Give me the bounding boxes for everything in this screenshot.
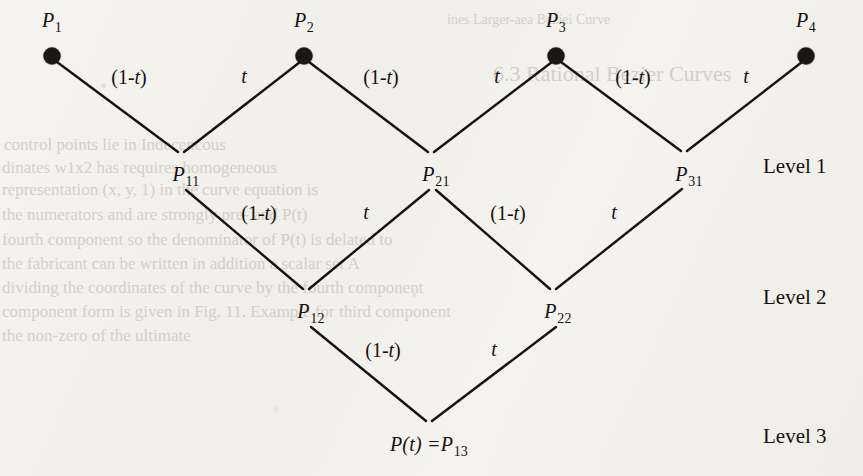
edge-weight-open: (1-	[111, 66, 134, 88]
point-label-p3: P3	[546, 9, 566, 36]
point-label-base: P	[422, 163, 434, 185]
point-label-base: P	[796, 9, 808, 31]
point-label-p31: P31	[675, 163, 702, 190]
point-label-p21: P21	[422, 163, 449, 190]
edge-weight-label: (1-t)	[365, 339, 401, 362]
edge-weight-parameter: t	[491, 338, 497, 360]
point-label-subscript: 3	[559, 19, 566, 34]
point-label-base: P	[546, 9, 558, 31]
point-label-p4: P4	[796, 9, 816, 36]
tree-edge	[556, 189, 682, 289]
point-label-subscript: 12	[310, 310, 324, 325]
control-point-dot-p2	[296, 48, 313, 65]
level-caption-level1: Level 1	[763, 154, 827, 179]
point-label-subscript: 11	[186, 173, 200, 188]
edge-weight-label: (1-t)	[490, 202, 526, 225]
point-label-subscript: 2	[307, 19, 314, 34]
point-label-base: P	[675, 163, 687, 185]
edge-weight-label: (1-t)	[111, 66, 147, 89]
point-label-p2: P2	[294, 9, 314, 36]
edge-weight-close: )	[394, 339, 401, 361]
edge-weight-label: t	[494, 65, 500, 88]
edge-weight-parameter: t	[241, 65, 247, 87]
result-label-base: P	[441, 433, 453, 455]
edge-weight-close: )	[270, 202, 277, 224]
edge-weight-label: t	[611, 201, 617, 224]
edge-weight-close: )	[644, 66, 651, 88]
point-label-subscript: 31	[688, 173, 702, 188]
level-caption-level2: Level 2	[763, 285, 827, 310]
edge-weight-open: (1-	[363, 66, 386, 88]
edge-weight-label: (1-t)	[615, 66, 651, 89]
edge-weight-label: t	[491, 338, 497, 361]
edge-weight-label: (1-t)	[241, 202, 277, 225]
edge-weight-open: (1-	[241, 202, 264, 224]
point-label-p12: P12	[297, 300, 324, 327]
point-label-base: P	[173, 163, 185, 185]
point-label-subscript: 1	[55, 19, 62, 34]
edge-weight-label: t	[363, 201, 369, 224]
point-label-p1: P1	[42, 9, 62, 36]
result-label-subscript: 13	[454, 443, 468, 458]
point-label-base: P	[297, 300, 309, 322]
edge-weight-close: )	[519, 202, 526, 224]
control-point-dot-p1	[44, 48, 61, 65]
edge-weight-open: (1-	[490, 202, 513, 224]
edge-weight-close: )	[392, 66, 399, 88]
control-point-dot-p4	[798, 48, 815, 65]
control-point-dot-p3	[548, 48, 565, 65]
point-label-subscript: 21	[435, 173, 449, 188]
edge-weight-label: (1-t)	[363, 66, 399, 89]
edge-weight-label: t	[241, 65, 247, 88]
point-label-base: P	[42, 9, 54, 31]
tree-edge	[434, 62, 552, 152]
edge-weight-parameter: t	[494, 65, 500, 87]
edge-weight-parameter: t	[363, 201, 369, 223]
edge-group	[57, 62, 802, 421]
edge-weight-parameter: t	[611, 201, 617, 223]
level-caption-level3: Level 3	[763, 424, 827, 449]
edge-weight-close: )	[140, 66, 147, 88]
point-label-base: P	[294, 9, 306, 31]
edge-weight-open: (1-	[365, 339, 388, 361]
point-label-subscript: 4	[809, 19, 816, 34]
result-label-p13: P(t) =P13	[390, 433, 468, 460]
edge-weight-label: t	[743, 65, 749, 88]
result-label-prefix: P(t) =	[390, 433, 441, 455]
edge-weight-open: (1-	[615, 66, 638, 88]
point-label-p22: P22	[544, 300, 571, 327]
point-label-subscript: 22	[557, 310, 571, 325]
point-label-p11: P11	[173, 163, 200, 190]
edge-weight-parameter: t	[743, 65, 749, 87]
point-label-base: P	[544, 300, 556, 322]
scanned-figure-page: ines Larger-aea Beziei Curve6.3 Rational…	[0, 0, 863, 476]
